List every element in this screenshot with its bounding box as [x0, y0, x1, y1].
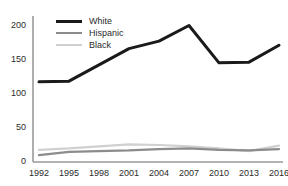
legend-item-hispanic: Hispanic — [56, 27, 124, 39]
y-tick-label: 50 — [4, 123, 26, 132]
x-tick-label: 2013 — [234, 169, 264, 178]
legend-swatch-black — [56, 44, 82, 46]
legend-item-black: Black — [56, 39, 124, 51]
y-tick-label: 100 — [4, 89, 26, 98]
legend-swatch-white — [56, 20, 82, 23]
legend-label-white: White — [89, 17, 112, 26]
line-chart: White Hispanic Black 050100150200 199219… — [0, 0, 288, 186]
legend-swatch-hispanic — [56, 32, 82, 34]
y-tick-label: 200 — [4, 21, 26, 30]
x-tick-label: 2001 — [114, 169, 144, 178]
y-tick-label: 0 — [4, 157, 26, 166]
x-tick-label: 2004 — [144, 169, 174, 178]
y-tick-label: 150 — [4, 55, 26, 64]
legend-label-hispanic: Hispanic — [89, 29, 124, 38]
x-tick-label: 1992 — [24, 169, 54, 178]
legend-item-white: White — [56, 15, 124, 27]
series-line-hispanic — [39, 148, 279, 155]
x-tick-label: 1998 — [84, 169, 114, 178]
x-tick-label: 2010 — [204, 169, 234, 178]
plot-area — [0, 0, 288, 186]
x-tick-label: 2007 — [174, 169, 204, 178]
x-tick-label: 1995 — [54, 169, 84, 178]
legend-label-black: Black — [89, 41, 111, 50]
chart-legend: White Hispanic Black — [56, 15, 124, 51]
x-tick-label: 2016 — [264, 169, 288, 178]
